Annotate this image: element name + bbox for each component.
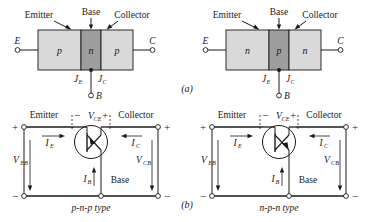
npn-sign-top-right: + <box>352 121 358 133</box>
npn-base-caption: Base <box>270 7 288 17</box>
npn-type-text: n-p-n type <box>260 203 299 213</box>
pnp-vce-plus: + <box>102 109 108 121</box>
npn-region-mid-label: p <box>276 45 282 56</box>
pnp-vce-subscript: CE <box>94 115 102 122</box>
pnp-ic-arrow-head <box>121 134 127 138</box>
pnp-ic-subscript: C <box>136 142 141 149</box>
npn-veb-arrow-head <box>216 186 220 192</box>
npn-vce-subscript: CE <box>282 115 290 122</box>
caption-a: (a) <box>181 83 193 95</box>
pnp-vce-minus: − <box>74 109 80 121</box>
pnp-node-base-bottom <box>99 194 104 199</box>
pnp-sign-top-left: + <box>12 121 18 133</box>
pnp-circuit-emitter-label: Emitter <box>30 110 59 120</box>
npn-junction-jc-subscript: C <box>290 78 295 85</box>
npn-emitter-terminal-node <box>203 48 208 53</box>
caption-b: (b) <box>181 199 193 211</box>
npn-terminal-e-label: E <box>202 36 209 46</box>
npn-ie-subscript: E <box>237 142 242 149</box>
transistor-figure: p n p E C B J E J C Emitter Base Collect… <box>0 0 376 222</box>
npn-node-base-bottom <box>287 194 292 199</box>
npn-node-top-right <box>344 125 349 130</box>
pnp-emitter-arrow-head <box>65 25 71 30</box>
pnp-node-bottom-right <box>156 194 161 199</box>
pnp-emitter-caption: Emitter <box>25 10 54 20</box>
pnp-emitter-terminal-node <box>15 48 20 53</box>
npn-vcb-subscript: CB <box>331 159 339 166</box>
pnp-sign-bottom-right: − <box>164 190 170 202</box>
pnp-circuit-collector-label: Collector <box>118 110 154 120</box>
npn-ie-label: I <box>232 138 237 148</box>
pnp-circuit-base-label: Base <box>111 175 129 185</box>
pnp-sign-top-right: + <box>164 121 170 133</box>
pnp-junction-je-subscript: E <box>78 78 83 85</box>
npn-vce-minus: − <box>262 109 268 121</box>
pnp-node-top-right <box>156 125 161 130</box>
pnp-junction-jc-subscript: C <box>102 78 107 85</box>
npn-base-arrow-head <box>277 25 281 30</box>
pnp-terminal-c-label: C <box>149 36 156 46</box>
pnp-ie-subscript: E <box>49 142 54 149</box>
npn-node-bottom-left <box>210 194 215 199</box>
pnp-base-caption: Base <box>82 7 100 17</box>
npn-node-bottom-right <box>344 194 349 199</box>
npn-ic-label: I <box>318 138 323 148</box>
npn-veb-label: V <box>201 155 208 165</box>
pnp-structure-panel: p n p E C B J E J C Emitter Base Collect… <box>14 7 157 101</box>
npn-vce-plus: + <box>290 109 296 121</box>
pnp-collector-caption: Collector <box>114 10 150 20</box>
pnp-ic-label: I <box>130 138 135 148</box>
npn-ib-arrow-head <box>280 167 284 173</box>
pnp-veb-arrow-head <box>28 186 32 192</box>
pnp-node-top-left <box>22 125 27 130</box>
pnp-veb-label: V <box>13 155 20 165</box>
npn-emitter-arrow-head <box>253 25 259 30</box>
npn-vcb-label: V <box>324 155 331 165</box>
npn-region-right-label: n <box>303 45 308 56</box>
npn-circuit-panel: − V CE + Emitter Collector + + − − V EB … <box>200 109 358 213</box>
pnp-base-terminal-node <box>89 93 94 98</box>
pnp-region-mid-label: n <box>89 45 94 56</box>
pnp-region-right-label: p <box>114 45 120 56</box>
pnp-vcb-arrow-head <box>150 186 154 192</box>
npn-collector-caption: Collector <box>302 10 338 20</box>
pnp-region-left-label: p <box>56 45 62 56</box>
pnp-vcb-subscript: CB <box>143 159 151 166</box>
npn-veb-subscript: EB <box>207 159 216 166</box>
npn-circuit-collector-label: Collector <box>306 110 342 120</box>
pnp-ib-arrow-head <box>92 167 96 173</box>
npn-terminal-c-label: C <box>337 36 344 46</box>
pnp-base-junction-dot <box>89 68 93 72</box>
npn-ib-subscript: B <box>276 178 280 185</box>
npn-base-terminal-node <box>277 93 282 98</box>
pnp-sign-bottom-left: − <box>12 190 18 202</box>
npn-vcb-arrow-head <box>338 186 342 192</box>
npn-sign-bottom-left: − <box>200 190 206 202</box>
npn-collector-terminal-node <box>338 48 343 53</box>
pnp-ie-arrow-head <box>60 134 66 138</box>
pnp-terminal-e-label: E <box>14 36 21 46</box>
npn-sign-bottom-right: − <box>352 190 358 202</box>
npn-sign-top-left: + <box>200 121 206 133</box>
pnp-type-text: p-n-p type <box>71 203 111 213</box>
pnp-collector-arrow-head <box>107 24 113 30</box>
pnp-base-arrow-head <box>89 25 93 30</box>
pnp-circuit-panel: − V CE + Emitter Collector + + − − V EB … <box>12 109 170 213</box>
npn-node-top-left <box>210 125 215 130</box>
pnp-collector-terminal-node <box>150 48 155 53</box>
npn-circuit-base-label: Base <box>299 175 317 185</box>
npn-collector-arrow-head <box>295 24 301 30</box>
pnp-vcb-label: V <box>136 155 143 165</box>
npn-base-junction-dot <box>277 68 281 72</box>
npn-ie-arrow-head <box>248 134 254 138</box>
pnp-node-bottom-left <box>22 194 27 199</box>
npn-structure-panel: n p n E C B J E J C Emitter Base Collect… <box>202 7 345 101</box>
npn-circuit-emitter-label: Emitter <box>218 110 247 120</box>
npn-ic-subscript: C <box>324 142 329 149</box>
npn-transistor-envelope <box>263 126 296 159</box>
pnp-ib-subscript: B <box>88 178 92 185</box>
npn-terminal-b-label: B <box>284 91 290 101</box>
pnp-terminal-b-label: B <box>96 91 102 101</box>
pnp-veb-subscript: EB <box>19 159 28 166</box>
npn-junction-je-subscript: E <box>266 78 271 85</box>
